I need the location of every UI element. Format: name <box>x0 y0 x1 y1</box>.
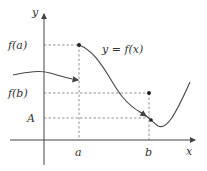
y-tick-fb: f(b) <box>7 87 28 100</box>
y-tick-fa: f(a) <box>7 39 27 52</box>
function-diagram: y x y = f(x) f(a) f(b) A a b <box>0 0 207 171</box>
x-axis-label: x <box>186 145 193 158</box>
axes: y x <box>10 6 195 165</box>
y-tick-A: A <box>26 112 35 125</box>
point-a-fa <box>77 43 81 47</box>
approach-arrow <box>140 112 146 116</box>
curve-label: y = f(x) <box>101 43 143 56</box>
y-axis-label: y <box>31 6 39 19</box>
x-tick-a: a <box>75 146 82 159</box>
point-b-fb <box>147 91 151 95</box>
main-curve <box>79 45 190 127</box>
left-curve-piece <box>13 72 78 80</box>
point-b-A-open <box>149 118 153 122</box>
x-tick-b: b <box>145 146 152 159</box>
